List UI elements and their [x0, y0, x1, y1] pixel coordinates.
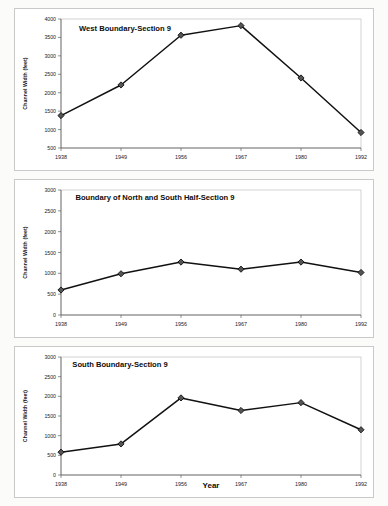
y-tick-label: 1000	[44, 127, 56, 133]
figure-page: 5001000150020002500300035004000193819491…	[0, 0, 388, 506]
plot-frame	[61, 19, 361, 148]
x-axis-title: Year	[203, 481, 220, 490]
x-tick-label: 1980	[295, 154, 307, 160]
x-tick-label: 1992	[355, 321, 367, 327]
y-tick-label: 2000	[44, 393, 56, 399]
y-tick-label: 3000	[44, 354, 56, 360]
x-tick-label: 1949	[115, 481, 127, 487]
y-axis-title: Channel Width (feet)	[22, 390, 28, 443]
data-series-line	[61, 398, 361, 452]
x-tick-label: 1967	[235, 321, 247, 327]
x-tick-label: 1992	[355, 481, 367, 487]
y-tick-label: 2500	[44, 208, 56, 214]
y-tick-label: 500	[47, 291, 56, 297]
data-point-marker	[118, 271, 124, 277]
data-point-marker	[178, 259, 184, 265]
data-point-marker	[58, 287, 64, 293]
data-series-line	[61, 262, 361, 290]
y-tick-label: 3000	[44, 53, 56, 59]
y-tick-label: 0	[53, 472, 56, 478]
x-tick-label: 1949	[115, 154, 127, 160]
y-tick-label: 1500	[44, 413, 56, 419]
x-tick-label: 1980	[295, 481, 307, 487]
x-tick-label: 1967	[235, 481, 247, 487]
x-tick-label: 1992	[355, 154, 367, 160]
x-tick-label: 1938	[55, 154, 67, 160]
data-point-marker	[358, 269, 364, 275]
chart-panel-south-boundary: 0500100015002000250030001938194919561967…	[14, 346, 374, 498]
y-tick-label: 2500	[44, 374, 56, 380]
y-tick-label: 2000	[44, 90, 56, 96]
data-point-marker	[58, 112, 64, 118]
y-tick-label: 2500	[44, 71, 56, 77]
x-tick-label: 1980	[295, 321, 307, 327]
plot-frame	[61, 190, 361, 315]
data-point-marker	[238, 407, 244, 413]
chart-title: South Boundary-Section 9	[72, 360, 167, 369]
y-tick-label: 1000	[44, 270, 56, 276]
x-tick-label: 1967	[235, 154, 247, 160]
data-series-line	[61, 26, 361, 133]
y-tick-label: 3500	[44, 34, 56, 40]
data-point-marker	[298, 259, 304, 265]
x-tick-label: 1956	[175, 154, 187, 160]
y-axis-title: Channel Width (feet)	[22, 226, 28, 279]
chart-1: 0500100015002000250030001938194919561967…	[15, 180, 373, 337]
x-tick-label: 1949	[115, 321, 127, 327]
y-tick-label: 2000	[44, 229, 56, 235]
y-tick-label: 0	[53, 312, 56, 318]
data-point-marker	[298, 400, 304, 406]
y-tick-label: 500	[47, 452, 56, 458]
x-tick-label: 1938	[55, 321, 67, 327]
y-tick-label: 1500	[44, 250, 56, 256]
y-tick-label: 1500	[44, 108, 56, 114]
y-tick-label: 3000	[44, 187, 56, 193]
y-tick-label: 500	[47, 145, 56, 151]
x-tick-label: 1956	[175, 321, 187, 327]
chart-title: West Boundary-Section 9	[79, 24, 171, 33]
data-point-marker	[58, 449, 64, 455]
x-tick-label: 1956	[175, 481, 187, 487]
y-axis-title: Channel Width (feet)	[22, 57, 28, 110]
y-tick-label: 1000	[44, 433, 56, 439]
x-tick-label: 1938	[55, 481, 67, 487]
chart-title: Boundary of North and South Half-Section…	[75, 193, 234, 202]
chart-2: 0500100015002000250030001938194919561967…	[15, 347, 373, 497]
chart-panel-north-south-half-boundary: 0500100015002000250030001938194919561967…	[14, 179, 374, 338]
plot-frame	[61, 357, 361, 475]
chart-panel-west-boundary: 5001000150020002500300035004000193819491…	[14, 8, 374, 171]
chart-0: 5001000150020002500300035004000193819491…	[15, 9, 373, 170]
data-point-marker	[238, 266, 244, 272]
data-point-marker	[358, 427, 364, 433]
y-tick-label: 4000	[44, 16, 56, 22]
